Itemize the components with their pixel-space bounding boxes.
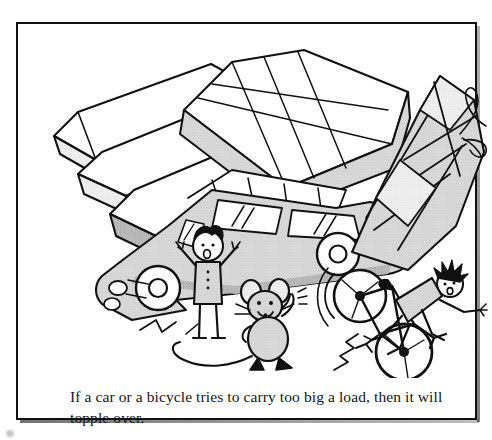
page-canvas: If a car or a bicycle tries to carry too… (0, 0, 492, 440)
cartoon-illustration (36, 48, 492, 378)
figure-frame: If a car or a bicycle tries to carry too… (16, 22, 477, 420)
illustration-svg (36, 48, 492, 378)
figure-caption: If a car or a bicycle tries to carry too… (70, 386, 460, 428)
page-smudge-mark (6, 430, 14, 437)
car-ground-marks (140, 320, 198, 334)
